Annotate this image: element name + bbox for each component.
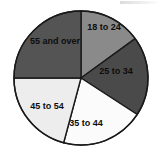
pie-chart-graphic xyxy=(0,0,161,159)
pie-chart: 18 to 24 25 to 34 35 to 44 45 to 54 55 a… xyxy=(0,0,161,159)
pie-slice-55-and-over xyxy=(14,11,81,78)
